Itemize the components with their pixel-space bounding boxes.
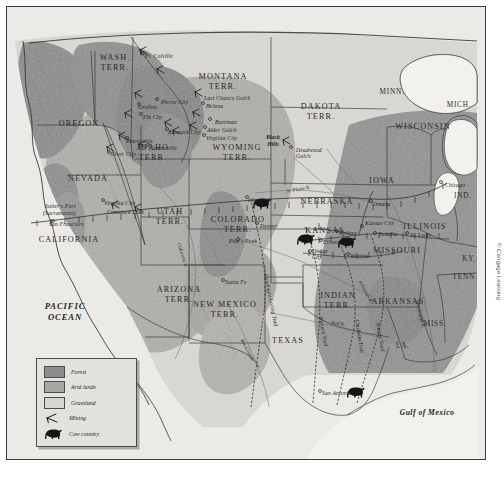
map-legend: ForestArid landsGrasslandMiningCow count… (36, 358, 137, 447)
copyright-credit: © Cengage Learning (496, 243, 503, 300)
map-frame: PACIFICOCEANGulf of Mexico WASH.TERR.ORE… (6, 6, 486, 460)
legend-row-grassland: Grassland (44, 397, 96, 408)
legend-label-grassland: Grassland (71, 400, 96, 406)
legend-label-mining: Mining (69, 415, 86, 421)
mining-pick-icon (44, 413, 63, 423)
historical-map-figure: PACIFICOCEANGulf of Mexico WASH.TERR.ORE… (0, 0, 504, 481)
legend-label-arid-lands: Arid lands (71, 384, 96, 390)
legend-row-forest: Forest (44, 366, 86, 377)
grassland-swatch (44, 397, 65, 409)
forest-swatch (44, 366, 65, 378)
legend-row-cow-country: Cow country (44, 428, 99, 439)
legend-label-cow-country: Cow country (69, 431, 99, 437)
cow-icon (44, 429, 63, 439)
arid-swatch (44, 381, 65, 393)
legend-label-forest: Forest (71, 369, 86, 375)
legend-row-mining: Mining (44, 413, 86, 424)
legend-row-arid-lands: Arid lands (44, 382, 96, 393)
